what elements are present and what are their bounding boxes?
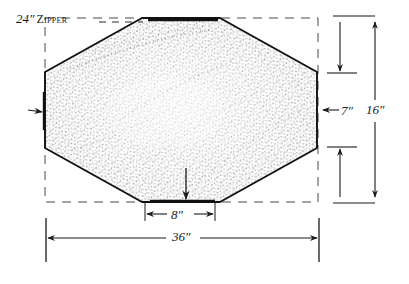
label-total-height: 16″: [366, 103, 384, 116]
label-corner-depth: 7″: [341, 104, 353, 117]
label-zipper-dimension: 24″Zipper: [16, 12, 67, 25]
cushion-pattern-diagram: 24″Zipper 7″ 16″ 8″ 36″: [0, 0, 409, 284]
zipper-size-text: 24″: [16, 11, 34, 26]
diagram-canvas: [0, 0, 409, 284]
label-bottom-flat-width: 8″: [171, 208, 183, 221]
label-total-width: 36″: [172, 230, 190, 243]
cushion-shape: [45, 18, 317, 202]
left-edge-arrow: [28, 92, 44, 130]
zipper-word-text: Zipper: [36, 12, 67, 26]
